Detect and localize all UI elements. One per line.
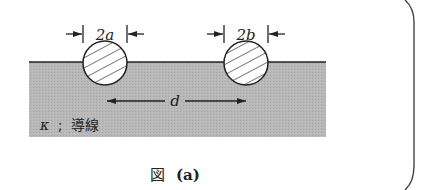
conductor-label: 導線 xyxy=(71,117,99,133)
label-2a: 2a xyxy=(95,26,115,44)
wire-b xyxy=(224,41,268,85)
kappa-symbol: κ xyxy=(39,117,49,133)
caption-prefix: 図 xyxy=(150,166,165,184)
caption-suffix: (a) xyxy=(176,166,200,184)
label-2b: 2b xyxy=(235,26,255,44)
figure-caption: 図 (a) xyxy=(150,166,200,184)
dimension-2a: 2a xyxy=(66,25,144,44)
label-d: d xyxy=(170,92,180,110)
dimension-2b: 2b xyxy=(207,25,285,44)
wire-a xyxy=(83,41,127,85)
diagram-canvas: 2a 2b d κ ; 導線 図 (a) xyxy=(0,0,422,190)
label-separator: ; xyxy=(58,117,63,133)
right-bracket xyxy=(405,0,414,190)
